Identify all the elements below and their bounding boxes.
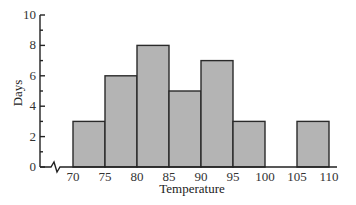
- x-tick-label: 100: [255, 169, 275, 184]
- y-axis-title: Days: [10, 80, 25, 107]
- histogram-bar: [297, 121, 329, 167]
- y-axis: 0246810: [23, 7, 45, 174]
- histogram-bar: [201, 61, 233, 167]
- bars-group: [73, 45, 329, 167]
- histogram-bar: [137, 45, 169, 167]
- histogram-bar: [233, 121, 265, 167]
- histogram-bar: [169, 91, 201, 167]
- x-tick-label: 75: [99, 169, 112, 184]
- x-axis-title: Temperature: [159, 181, 225, 196]
- histogram-bar: [105, 76, 137, 167]
- x-tick-label: 70: [67, 169, 80, 184]
- x-tick-label: 105: [287, 169, 307, 184]
- y-tick-label: 2: [30, 129, 37, 144]
- y-tick-label: 8: [30, 37, 37, 52]
- x-tick-label: 95: [227, 169, 240, 184]
- x-tick-label: 80: [131, 169, 144, 184]
- y-tick-label: 10: [23, 7, 36, 22]
- histogram-chart: 0246810 707580859095100105110 Days Tempe…: [0, 0, 356, 205]
- y-tick-label: 4: [30, 98, 37, 113]
- y-tick-label: 6: [30, 68, 37, 83]
- histogram-bar: [73, 121, 105, 167]
- y-tick-label: 0: [30, 159, 37, 174]
- x-tick-label: 110: [319, 169, 338, 184]
